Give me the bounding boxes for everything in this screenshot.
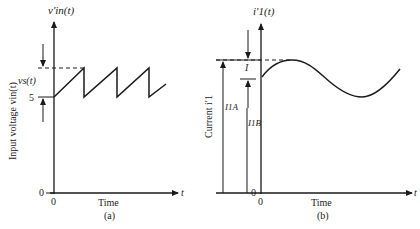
caption-a: (a): [104, 211, 115, 221]
panel-a: [38, 22, 178, 194]
level-a-label: I1A: [225, 103, 238, 112]
y-axis-title-a: v′in(t): [48, 5, 74, 16]
sinusoid-waveform: [262, 60, 400, 97]
x-axis-var-a: t: [181, 188, 184, 198]
y-axis-label-b: Current i′1: [204, 95, 214, 138]
y-axis-title-b: i′1(t): [253, 6, 274, 17]
tick-0-y-a: 0: [39, 188, 44, 198]
tick-0-x-b: 0: [258, 197, 263, 207]
x-axis-var-b: t: [414, 188, 417, 198]
x-axis-label-a: Time: [98, 198, 119, 208]
caption-b: (b): [317, 211, 329, 221]
y-axis-label-a: Input voltage vin(t): [8, 82, 18, 160]
ripple-label-a: vs(t): [18, 76, 36, 86]
tick-0-y-b: 0: [251, 188, 256, 198]
level-b-label: I1B: [248, 119, 261, 128]
tick-5: 5: [29, 93, 34, 103]
tick-0-x-a: 0: [51, 197, 56, 207]
sawtooth-waveform: [54, 68, 166, 97]
ripple-label-b: I: [245, 63, 248, 73]
panel-b: [216, 24, 412, 194]
x-axis-label-b: Time: [311, 198, 332, 208]
